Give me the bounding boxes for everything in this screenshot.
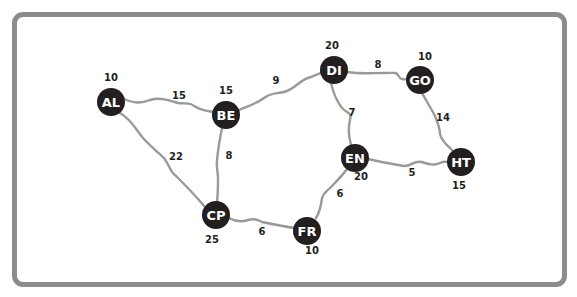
edge-en-fr: 6 [316,169,347,218]
node-value: 10 [418,51,432,62]
node-ht[interactable]: HT15 [447,148,475,191]
node-label: GO [409,73,431,88]
edge-weight: 5 [409,167,416,178]
node-fr[interactable]: FR10 [293,217,321,256]
edge-weight: 14 [436,112,450,123]
edge-go-ht: 14 [422,93,452,150]
edge-line [368,159,448,166]
edge-al-be: 15 [124,90,213,113]
edge-line [347,72,407,79]
node-value: 10 [104,72,118,83]
node-value: 20 [354,171,368,182]
edge-line [239,73,321,110]
node-en[interactable]: EN20 [341,144,369,182]
node-al[interactable]: AL10 [97,72,125,117]
node-label: EN [345,151,365,166]
node-label: DI [326,63,342,78]
edge-cp-fr: 6 [229,218,294,237]
edge-be-di: 9 [239,73,321,110]
weighted-graph: 1522988714566 AL10BE15DI20GO10EN20HT15CP… [0,0,577,297]
edge-weight: 6 [259,226,266,237]
node-be[interactable]: BE15 [212,85,240,130]
node-value: 20 [325,40,339,51]
edge-line [124,99,213,112]
node-label: HT [451,155,471,170]
node-label: CP [206,208,225,223]
node-label: FR [298,224,317,239]
edge-weight: 22 [169,151,183,162]
edge-weight: 8 [375,59,382,70]
edge-be-cp: 8 [217,128,233,202]
node-label: AL [102,95,120,110]
edge-weight: 7 [349,107,356,118]
edges-layer: 1522988714566 [120,59,452,237]
edge-di-en: 7 [331,83,356,145]
edge-di-go: 8 [347,59,407,80]
node-cp[interactable]: CP25 [202,201,230,245]
edge-weight: 15 [172,90,186,101]
edge-en-ht: 5 [368,159,448,178]
edge-line [217,128,222,202]
node-value: 15 [219,85,233,96]
edge-al-cp: 22 [120,113,204,206]
edge-weight: 6 [337,188,344,199]
node-go[interactable]: GO10 [406,51,434,95]
node-value: 10 [305,245,319,256]
edge-weight: 8 [226,150,233,161]
node-value: 15 [452,180,466,191]
node-di[interactable]: DI20 [320,40,348,85]
node-value: 25 [205,234,219,245]
node-label: BE [217,108,236,123]
edge-weight: 9 [273,75,280,86]
edge-line [120,113,204,206]
